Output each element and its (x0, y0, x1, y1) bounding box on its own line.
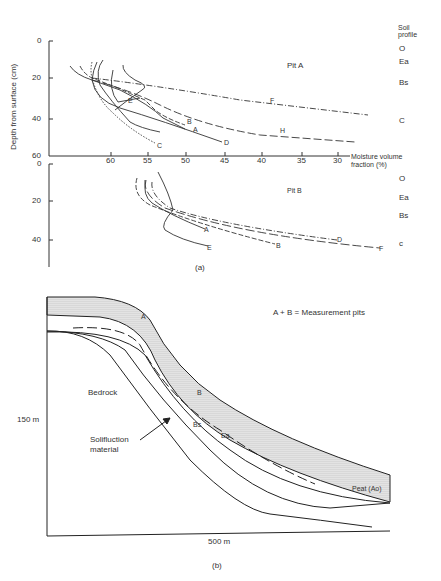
peat-label: Peat (Ao) (352, 485, 382, 492)
pit-b-horizon-c: c (399, 240, 403, 248)
pit-b-curve-f: F (379, 245, 383, 252)
pit-a-curve-h: H (280, 127, 285, 134)
pit-a-ytick-40: 40 (32, 115, 41, 123)
pit-label-b: B (197, 389, 202, 396)
solifluction-label-1: Solifluction (90, 436, 129, 444)
xtick-40: 40 (257, 157, 266, 165)
pit-b-horizon-bs: Bs (399, 212, 408, 220)
height-label: 150 m (17, 416, 39, 424)
pit-label-a: A (141, 313, 146, 320)
xtick-55: 55 (143, 157, 152, 165)
pit-b-axes (49, 164, 53, 267)
pit-b-ytick-40: 40 (32, 236, 41, 244)
pit-a-curves (70, 60, 368, 143)
bs-label: Bs (193, 421, 201, 428)
pit-a-curve-f: F (270, 97, 274, 104)
soil-profile-header-1: Soil (398, 24, 410, 31)
pit-b-curve-a: A (204, 226, 209, 233)
pit-b-curve-d: D (337, 236, 342, 243)
pit-a-curve-d: D (224, 139, 229, 146)
caption-a: (a) (195, 264, 205, 272)
xtick-60: 60 (106, 157, 115, 165)
pit-a-horizon-ea: Ea (399, 58, 409, 66)
pit-b-curve-b: B (276, 242, 281, 249)
ea-label: Ea (221, 432, 230, 439)
pit-a-title: Pit A (287, 62, 303, 70)
legend-measurement-pits: A + B = Measurement pits (273, 309, 365, 317)
pit-b-title: Pit B (287, 187, 302, 194)
slope-cross-section (47, 297, 390, 536)
bedrock-label: Bedrock (88, 389, 117, 397)
x-axis-label-1: Moisture volume (351, 153, 402, 160)
xtick-30: 30 (333, 157, 342, 165)
pit-a-ytick-0: 0 (37, 37, 41, 45)
pit-a-ytick-20: 20 (32, 74, 41, 82)
caption-b: (b) (212, 562, 222, 570)
xtick-45: 45 (220, 157, 229, 165)
pit-a-curve-e: E (128, 97, 133, 104)
y-axis-label: Depth from surface (cm) (10, 64, 18, 150)
pit-a-curve-b: B (187, 118, 192, 125)
width-label: 500 m (208, 538, 230, 546)
x-axis-label-2: fraction (%) (351, 161, 387, 168)
figure-canvas (0, 0, 441, 581)
pit-a-horizon-c: C (399, 117, 405, 125)
pit-a-horizon-o: O (399, 45, 405, 53)
pit-a-horizon-bs: Bs (399, 79, 408, 87)
pit-a-curve-a: A (193, 126, 198, 133)
soil-profile-header-2: profile (398, 31, 417, 38)
pit-a-curve-c: C (157, 142, 162, 149)
xtick-35: 35 (297, 157, 306, 165)
pit-b-curve-e: E (207, 244, 212, 251)
xtick-50: 50 (181, 157, 190, 165)
peat-layer (47, 297, 390, 502)
pit-b-horizon-o: O (399, 175, 405, 183)
pit-b-ytick-0: 0 (37, 160, 41, 168)
pit-b-horizon-ea: Ea (399, 194, 409, 202)
pit-b-curves (136, 172, 380, 248)
solifluction-label-2: material (90, 446, 118, 454)
pit-b-ytick-20: 20 (32, 197, 41, 205)
